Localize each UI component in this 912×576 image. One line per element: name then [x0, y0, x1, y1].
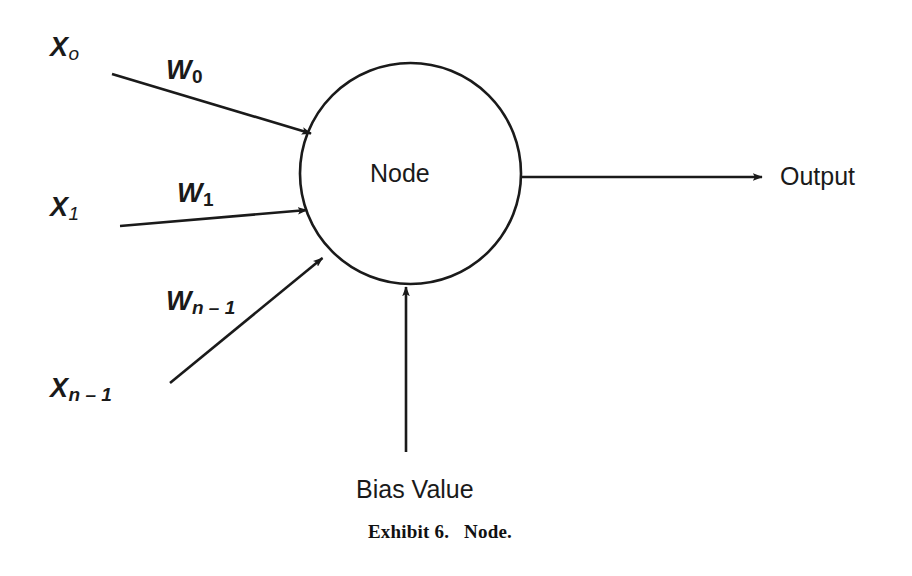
bias-label: Bias Value [356, 477, 474, 502]
input-arrow-n-1 [170, 258, 323, 383]
input-arrow-1 [120, 210, 307, 226]
input-label-0: Xo [50, 34, 79, 63]
figure-caption: Exhibit 6. Node. [368, 521, 512, 543]
output-label: Output [780, 164, 855, 189]
node-diagram: Xo W0 X1 W1 Wn – 1 Xn – 1 Node Output Bi… [0, 0, 912, 576]
input-label-1: X1 [50, 194, 79, 223]
weight-label-n-1: Wn – 1 [166, 288, 235, 317]
weight-label-0: W0 [166, 57, 203, 86]
input-arrow-0 [112, 74, 311, 134]
weight-label-1: W1 [177, 180, 214, 209]
node-label: Node [370, 161, 430, 186]
input-label-n-1: Xn – 1 [50, 375, 112, 404]
